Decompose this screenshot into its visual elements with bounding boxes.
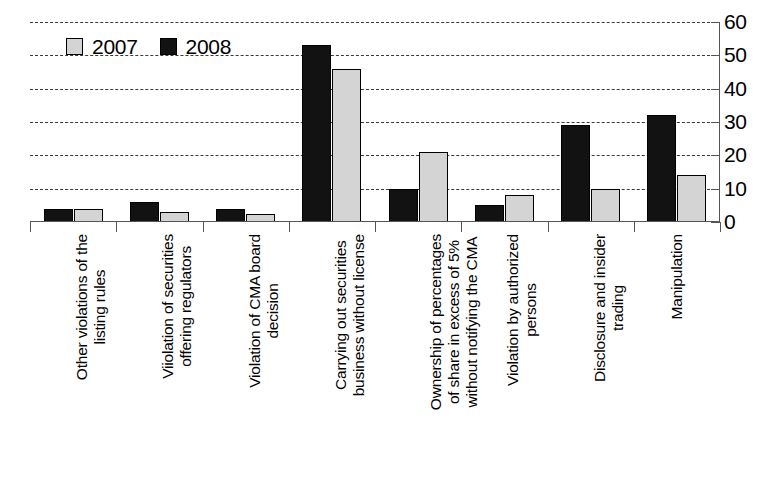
category-labels: Other violations of thelisting rulesViio… (30, 234, 720, 498)
x-tick-mark (548, 222, 549, 232)
x-tick-mark (461, 222, 462, 232)
y-tick-mark-10 (711, 189, 720, 190)
y-tick-mark-60 (711, 22, 720, 23)
legend-swatch-2008-icon (160, 38, 177, 55)
bar-2008 (475, 205, 504, 222)
x-tick-mark (720, 222, 721, 232)
bar-group (302, 22, 361, 222)
bar-group (561, 22, 620, 222)
category-label-line: Other violations of the (73, 234, 91, 380)
x-tick-mark (634, 222, 635, 232)
bar-2008 (302, 45, 331, 222)
category-label-line: offering regulators (177, 234, 195, 379)
legend-label-2008: 2008 (186, 36, 232, 57)
bar-2008 (561, 125, 590, 222)
bar-group (389, 22, 448, 222)
category-label-line: Disclosure and insider (591, 234, 609, 382)
category-label-line: of share in excess of 5% (445, 234, 463, 410)
legend: 2007 2008 (66, 36, 231, 57)
y-tick-mark-30 (711, 122, 720, 123)
category-label-line: without notifying the CMA (463, 234, 481, 410)
category-label-line: decision (264, 234, 282, 388)
bar-2007 (505, 195, 534, 222)
bar-2007 (419, 152, 448, 222)
category-label: Disclosure and insidertrading (591, 234, 627, 382)
bar-2007 (74, 209, 103, 222)
bar-chart: 6050403020100 2007 2008 Other violations… (0, 0, 775, 501)
bar-2008 (389, 189, 418, 222)
y-tick-mark-40 (711, 89, 720, 90)
category-label-line: Ownership of percentages (427, 234, 445, 410)
y-tick-label-20: 20 (724, 144, 746, 165)
legend-label-2007: 2007 (92, 36, 138, 57)
y-tick-label-40: 40 (724, 78, 746, 99)
category-label-line: Violation of CMA board (246, 234, 264, 388)
category-label: Viiolation of securitiesoffering regulat… (159, 234, 195, 379)
category-label: Other violations of thelisting rules (73, 234, 109, 380)
bar-2008 (44, 209, 73, 222)
y-tick-label-10: 10 (724, 178, 746, 199)
category-label: Violation by authorizedpersons (504, 234, 540, 386)
category-label-line: business without license (350, 234, 368, 396)
bar-2007 (591, 189, 620, 222)
x-tick-mark (30, 222, 31, 232)
y-tick-label-50: 50 (724, 44, 746, 65)
legend-entry-2008: 2008 (160, 36, 232, 57)
bar-group (647, 22, 706, 222)
legend-entry-2007: 2007 (66, 36, 138, 57)
x-tick-mark (116, 222, 117, 232)
category-label-line: persons (522, 234, 540, 386)
category-label-line: Carrying out securities (332, 234, 350, 396)
category-label-line: listing rules (91, 234, 109, 380)
category-label: Manipulation (668, 234, 686, 320)
category-label-line: trading (609, 234, 627, 382)
y-tick-label-60: 60 (724, 11, 746, 32)
category-label-line: Violation by authorized (504, 234, 522, 386)
bar-2007 (332, 69, 361, 222)
bar-2008 (216, 209, 245, 222)
bar-2007 (677, 175, 706, 222)
y-tick-mark-0 (711, 222, 720, 223)
y-tick-label-30: 30 (724, 111, 746, 132)
x-tick-mark (289, 222, 290, 232)
bar-2008 (130, 202, 159, 222)
legend-swatch-2007-icon (66, 38, 83, 55)
y-tick-mark-50 (711, 55, 720, 56)
bar-2008 (647, 115, 676, 222)
y-tick-label-0: 0 (724, 211, 735, 232)
category-label-line: Manipulation (668, 234, 686, 320)
x-tick-mark (203, 222, 204, 232)
bar-group (475, 22, 534, 222)
category-label-line: Viiolation of securities (159, 234, 177, 379)
category-label: Ownership of percentagesof share in exce… (427, 234, 481, 410)
x-tick-mark (375, 222, 376, 232)
y-tick-mark-20 (711, 155, 720, 156)
category-label: Carrying out securitiesbusiness without … (332, 234, 368, 396)
category-label: Violation of CMA boarddecision (246, 234, 282, 388)
